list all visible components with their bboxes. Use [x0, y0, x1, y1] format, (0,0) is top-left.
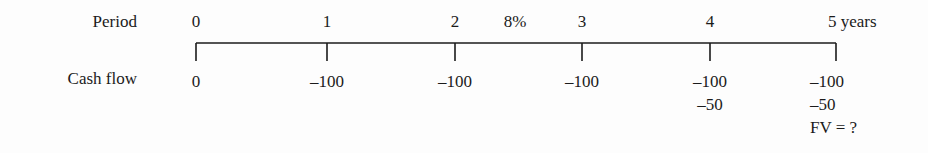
cash-flow-stack-3: –100 — [565, 70, 599, 93]
cash-flow-row-label: Cash flow — [0, 70, 137, 87]
cash-flow-value-3-0: –100 — [565, 70, 599, 93]
period-row-label: Period — [0, 13, 137, 30]
period-label-0: 0 — [192, 13, 201, 30]
cash-flow-timeline-figure: Period Cash flow 8% 012345 years 0–100–1… — [0, 0, 928, 153]
cash-flow-stack-0: 0 — [192, 70, 201, 93]
cash-flow-value-5-0: –100 — [810, 70, 857, 93]
cash-flow-value-2-0: –100 — [438, 70, 472, 93]
cash-flow-stack-1: –100 — [310, 70, 344, 93]
cash-flow-value-4-0: –100 — [693, 70, 727, 93]
period-label-1: 1 — [323, 13, 332, 30]
cash-flow-stack-2: –100 — [438, 70, 472, 93]
period-label-2: 2 — [451, 13, 460, 30]
cash-flow-value-4-1: –50 — [693, 93, 727, 116]
interest-rate-label: 8% — [504, 13, 527, 30]
cash-flow-stack-5: –100–50FV = ? — [810, 70, 857, 139]
cash-flow-value-1-0: –100 — [310, 70, 344, 93]
cash-flow-value-0-0: 0 — [192, 70, 201, 93]
future-value-note: FV = ? — [810, 116, 857, 139]
cash-flow-stack-4: –100–50 — [693, 70, 727, 116]
period-label-3: 3 — [578, 13, 587, 30]
period-label-5: 5 years — [828, 13, 877, 30]
period-label-4: 4 — [706, 13, 715, 30]
cash-flow-value-5-1: –50 — [810, 93, 857, 116]
